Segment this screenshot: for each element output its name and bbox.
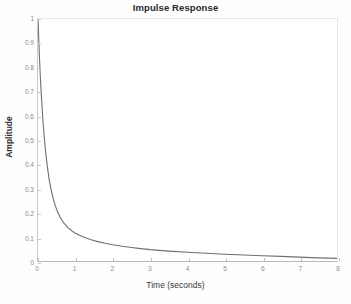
chart-title: Impulse Response	[0, 2, 351, 13]
chart-figure: Impulse Response 00.10.20.30.40.50.60.70…	[0, 0, 351, 304]
x-axis-label: Time (seconds)	[0, 280, 351, 290]
x-tick-mark	[189, 258, 190, 261]
x-tick-label: 6	[253, 265, 273, 272]
y-tick-mark	[38, 165, 41, 166]
y-tick-mark	[38, 214, 41, 215]
x-tick-mark	[226, 258, 227, 261]
plot-area	[37, 18, 338, 262]
x-tick-mark	[151, 258, 152, 261]
y-tick-mark	[38, 263, 41, 264]
x-tick-mark	[38, 258, 39, 261]
y-tick-label: 0.3	[4, 185, 34, 192]
y-tick-label: 1	[4, 15, 34, 22]
y-tick-label: 0.9	[4, 39, 34, 46]
y-tick-mark	[38, 239, 41, 240]
y-tick-label: 0.2	[4, 210, 34, 217]
x-tick-label: 1	[65, 265, 85, 272]
x-tick-mark	[301, 258, 302, 261]
y-tick-label: 0.7	[4, 88, 34, 95]
x-tick-label: 4	[178, 265, 198, 272]
y-tick-label: 0.1	[4, 234, 34, 241]
y-tick-mark	[38, 19, 41, 20]
x-tick-mark	[339, 258, 340, 261]
x-tick-label: 2	[102, 265, 122, 272]
y-tick-mark	[38, 141, 41, 142]
x-tick-mark	[76, 258, 77, 261]
x-tick-label: 0	[27, 265, 47, 272]
y-tick-mark	[38, 190, 41, 191]
y-tick-mark	[38, 68, 41, 69]
x-axis-tick-labels: 012345678	[37, 265, 338, 277]
y-tick-mark	[38, 92, 41, 93]
x-tick-mark	[113, 258, 114, 261]
y-tick-mark	[38, 117, 41, 118]
x-tick-mark	[264, 258, 265, 261]
y-tick-mark	[38, 43, 41, 44]
x-tick-label: 5	[215, 265, 235, 272]
x-tick-label: 8	[328, 265, 348, 272]
y-tick-label: 0.8	[4, 63, 34, 70]
impulse-response-curve	[38, 19, 337, 261]
x-tick-label: 7	[290, 265, 310, 272]
x-tick-label: 3	[140, 265, 160, 272]
y-axis-label: Amplitude	[4, 97, 14, 177]
